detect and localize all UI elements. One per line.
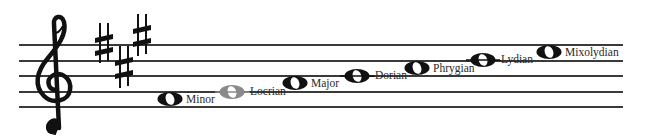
whole-note-icon (470, 53, 496, 68)
mode-label-lydian: Lydian (501, 54, 533, 66)
whole-note-icon (404, 61, 430, 76)
sharp-g-icon (132, 14, 152, 60)
treble-clef-icon (30, 14, 80, 140)
mode-label-dorian: Dorian (375, 70, 407, 82)
sharp-c-icon (114, 46, 134, 92)
mode-label-phrygian: Phrygian (433, 63, 475, 75)
mode-label-minor: Minor (186, 94, 215, 106)
whole-note-icon (219, 85, 245, 100)
whole-note-icon (157, 92, 183, 107)
sharp-f-icon (94, 23, 114, 67)
mode-label-locrian: Locrian (250, 86, 286, 98)
mode-label-mixolydian: Mixolydian (565, 47, 619, 59)
staff-line-5 (19, 106, 623, 108)
whole-note-icon (282, 76, 308, 91)
staff-line-4 (19, 91, 623, 93)
music-staff-diagram: MinorLocrianMajorDorianPhrygianLydianMix… (0, 0, 645, 140)
whole-note-icon (344, 69, 370, 84)
whole-note-icon (536, 45, 562, 60)
mode-label-major: Major (311, 78, 339, 90)
